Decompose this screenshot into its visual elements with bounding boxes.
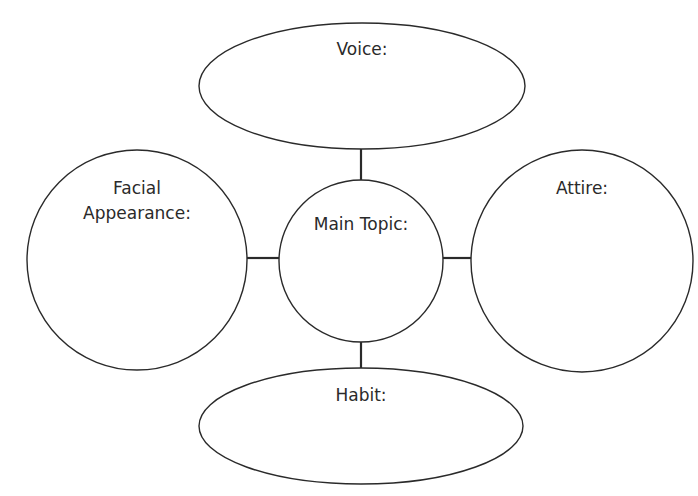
main-topic-circle xyxy=(279,180,443,342)
facial-appearance-label: Facial Appearance: xyxy=(37,176,237,226)
facial-appearance-label-line1: Facial xyxy=(37,176,237,201)
attire-label: Attire: xyxy=(482,176,682,201)
habit-label: Habit: xyxy=(261,383,461,408)
diagram-canvas xyxy=(0,0,698,496)
main-topic-label: Main Topic: xyxy=(261,212,461,237)
voice-label: Voice: xyxy=(262,37,462,62)
facial-appearance-label-line2: Appearance: xyxy=(37,201,237,226)
